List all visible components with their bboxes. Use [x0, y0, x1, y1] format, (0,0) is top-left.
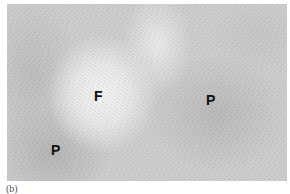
figure-caption: (b) — [6, 183, 18, 194]
micrograph-image: F P P — [7, 4, 287, 181]
label-follicle: F — [94, 89, 103, 103]
label-parenchyma-right: P — [206, 93, 215, 107]
label-parenchyma-left: P — [51, 143, 60, 157]
tissue-texture — [7, 4, 287, 181]
